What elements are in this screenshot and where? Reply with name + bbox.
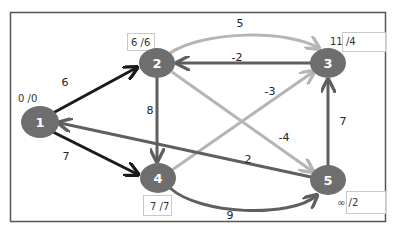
weight-1-2: 6 (62, 76, 69, 89)
node-4-label: 4 (153, 171, 162, 186)
weight-2-4: 8 (147, 104, 154, 117)
node-1-label: 1 (35, 115, 44, 130)
dist-label-3: 11 /4 (330, 36, 356, 47)
dist-label-2: 6 /6 (131, 37, 150, 48)
edge-5-1 (60, 123, 311, 177)
edge-1-2 (53, 68, 136, 113)
weight-1-4: 7 (63, 150, 70, 163)
node-2[interactable]: 2 (139, 48, 175, 78)
edges (53, 35, 328, 211)
node-4[interactable]: 4 (140, 163, 176, 193)
weight-5-3: 7 (340, 115, 347, 128)
dist-label-1: 0 /0 (18, 93, 37, 104)
node-2-label: 2 (152, 56, 161, 71)
weight-5-1: 2 (245, 153, 252, 166)
weight-3-2: -2 (232, 51, 243, 64)
dist-label-5: ∞ /2 (337, 197, 358, 208)
edge-weights: 6 7 5 -2 8 -3 -4 2 7 9 (62, 17, 347, 222)
weight-4-5: 9 (227, 209, 234, 222)
graph-diagram: 6 7 5 -2 8 -3 -4 2 7 9 0 /0 6 /6 11 /4 7… (0, 0, 400, 234)
weight-2-5: -4 (279, 131, 290, 144)
node-1[interactable]: 1 (21, 106, 59, 138)
weight-2-3: 5 (237, 17, 244, 30)
node-5[interactable]: 5 (310, 165, 346, 195)
edge-2-3 (170, 35, 318, 53)
dist-label-4: 7 /7 (150, 201, 169, 212)
node-3-label: 3 (323, 56, 332, 71)
node-5-label: 5 (323, 173, 332, 188)
weight-4-3: -3 (265, 85, 276, 98)
edge-4-5 (170, 188, 316, 211)
node-3[interactable]: 3 (310, 48, 346, 78)
